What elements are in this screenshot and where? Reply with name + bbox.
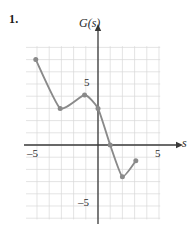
data-point-3 [96,106,101,111]
figure-root: 1. G(s) s –5 5 5 –5 [0,0,195,234]
x-tick-label-negative-5: –5 [27,147,38,159]
y-axis-label: G(s) [79,16,100,31]
x-tick-label-positive-5: 5 [155,147,161,159]
y-tick-label-positive-5: 5 [84,76,90,88]
data-point-2 [82,92,87,97]
y-tick-label-negative-5: –5 [78,196,89,208]
data-point-5 [120,174,125,179]
x-axis-label: s [182,136,187,151]
data-point-1 [58,106,63,111]
data-point-6 [133,158,138,163]
grid-lines [26,46,160,219]
data-point-4 [108,143,113,148]
data-point-0 [33,57,38,62]
graph-canvas [0,0,195,234]
